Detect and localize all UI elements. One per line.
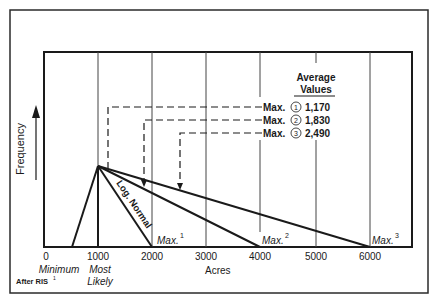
average-value-1: Max. 1 1,170 — [263, 102, 330, 113]
x-tick-labels: 0 1000 2000 3000 4000 5000 6000 — [43, 251, 381, 262]
svg-text:1000: 1000 — [87, 251, 110, 262]
svg-text:5000: 5000 — [305, 251, 328, 262]
svg-text:2: 2 — [285, 232, 289, 239]
average-value-2: Max. 2 1,830 — [263, 115, 330, 126]
svg-text:1: 1 — [294, 104, 298, 111]
x-axis-label: Acres — [205, 265, 231, 276]
distribution-lines — [72, 166, 370, 247]
svg-text:Max.: Max. — [157, 235, 179, 246]
average-value-3: Max. 3 2,490 — [263, 128, 330, 139]
plot-frame — [44, 52, 412, 247]
svg-text:1,830: 1,830 — [305, 115, 330, 126]
svg-text:Max.: Max. — [263, 128, 285, 139]
svg-text:3: 3 — [395, 232, 399, 239]
y-axis-label: Frequency — [14, 123, 26, 175]
credit-label: After RIS 1 — [16, 275, 56, 286]
svg-text:6000: 6000 — [359, 251, 382, 262]
svg-text:2: 2 — [294, 117, 298, 124]
minimum-label: Minimum — [39, 264, 80, 275]
most-likely-label-line1: Most — [89, 264, 112, 275]
svg-text:1,170: 1,170 — [305, 102, 330, 113]
svg-text:After RIS: After RIS — [16, 277, 48, 286]
max-label-3: Max. 3 — [372, 232, 399, 246]
svg-text:0: 0 — [43, 251, 49, 262]
svg-text:3: 3 — [294, 130, 298, 137]
svg-text:3000: 3000 — [195, 251, 218, 262]
max-label-2: Max. 2 — [262, 232, 289, 246]
most-likely-label-line2: Likely — [87, 276, 114, 287]
svg-text:2000: 2000 — [141, 251, 164, 262]
svg-text:2,490: 2,490 — [305, 128, 330, 139]
average-leader-lines — [108, 107, 262, 185]
legend-title-line1: Average — [296, 72, 336, 83]
svg-text:4000: 4000 — [249, 251, 272, 262]
legend-title-line2: Values — [300, 84, 332, 95]
frequency-arrow-icon — [32, 105, 40, 180]
max-label-1: Max. 1 — [157, 232, 184, 246]
svg-text:Max.: Max. — [263, 102, 285, 113]
svg-text:1: 1 — [53, 275, 56, 281]
svg-text:1: 1 — [180, 232, 184, 239]
svg-text:Max.: Max. — [263, 115, 285, 126]
frequency-distribution-diagram: Frequency Average Values Max. 1 1,170 Ma… — [0, 0, 436, 302]
svg-text:Max.: Max. — [262, 235, 284, 246]
svg-text:Max.: Max. — [372, 235, 394, 246]
